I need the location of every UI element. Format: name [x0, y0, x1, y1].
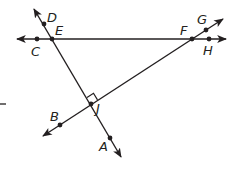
- line-da: [34, 9, 121, 157]
- right-angle-mark: [87, 93, 98, 100]
- point-f: [190, 37, 195, 42]
- geometry-diagram: D E C F G H J B A: [0, 0, 240, 170]
- label-c: C: [31, 44, 41, 59]
- label-f: F: [180, 23, 188, 38]
- point-c: [35, 37, 40, 42]
- point-j: [89, 102, 94, 107]
- label-g: G: [197, 12, 207, 27]
- point-e: [50, 37, 55, 42]
- point-a: [108, 136, 113, 141]
- label-e: E: [55, 23, 64, 38]
- label-b: B: [50, 109, 59, 124]
- point-h: [207, 37, 212, 42]
- line-bg: [43, 19, 223, 136]
- label-h: H: [203, 43, 213, 58]
- label-a: A: [98, 139, 108, 154]
- point-d: [42, 22, 47, 27]
- point-g: [204, 28, 209, 33]
